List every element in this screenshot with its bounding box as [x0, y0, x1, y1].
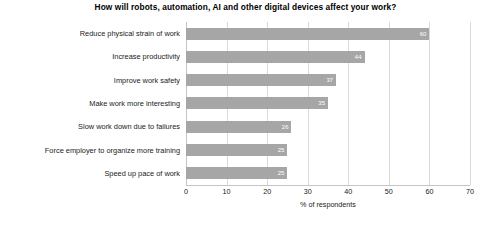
bar[interactable]: 44 — [186, 51, 365, 63]
bar-value-label: 44 — [355, 51, 365, 63]
plot-area: 60443735262525 — [186, 22, 470, 185]
category-label: Reduce physical strain of work — [0, 22, 183, 45]
bar-series: 60443735262525 — [186, 22, 470, 185]
x-axis-tick-labels: 010203040506070 — [186, 186, 470, 198]
x-tick-label: 30 — [304, 187, 312, 196]
bar-row[interactable]: 44 — [186, 45, 470, 68]
gridline-70 — [470, 22, 471, 185]
bar-value-label: 60 — [420, 28, 430, 40]
x-tick-label: 60 — [425, 187, 433, 196]
bar-row[interactable]: 25 — [186, 138, 470, 161]
bar-row[interactable]: 35 — [186, 92, 470, 115]
category-label: Slow work down due to failures — [0, 115, 183, 138]
bar[interactable]: 25 — [186, 167, 287, 179]
category-label: Force employer to organize more training — [0, 138, 183, 161]
bar-value-label: 25 — [278, 167, 288, 179]
x-axis-title: % of respondents — [186, 200, 470, 209]
bar-value-label: 35 — [318, 97, 328, 109]
bar[interactable]: 37 — [186, 74, 336, 86]
bar[interactable]: 26 — [186, 121, 291, 133]
bar-row[interactable]: 26 — [186, 115, 470, 138]
x-tick-label: 70 — [466, 187, 474, 196]
bar[interactable]: 60 — [186, 28, 429, 40]
chart-title: How will robots, automation, AI and othe… — [0, 2, 491, 12]
bar-value-label: 37 — [326, 74, 336, 86]
category-label: Increase productivity — [0, 45, 183, 68]
bar[interactable]: 25 — [186, 144, 287, 156]
bar-row[interactable]: 25 — [186, 162, 470, 185]
x-tick-label: 10 — [223, 187, 231, 196]
x-tick-label: 50 — [385, 187, 393, 196]
bar-row[interactable]: 60 — [186, 22, 470, 45]
category-label: Speed up pace of work — [0, 162, 183, 185]
bar-value-label: 25 — [278, 144, 288, 156]
x-tick-label: 40 — [344, 187, 352, 196]
category-label: Make work more interesting — [0, 92, 183, 115]
bar-row[interactable]: 37 — [186, 69, 470, 92]
bar[interactable]: 35 — [186, 97, 328, 109]
x-tick-label: 20 — [263, 187, 271, 196]
category-label: Improve work safety — [0, 69, 183, 92]
x-tick-label: 0 — [184, 187, 188, 196]
bar-chart: How will robots, automation, AI and othe… — [0, 0, 491, 228]
bar-value-label: 26 — [282, 121, 292, 133]
category-axis-labels: Reduce physical strain of workIncrease p… — [0, 22, 183, 185]
